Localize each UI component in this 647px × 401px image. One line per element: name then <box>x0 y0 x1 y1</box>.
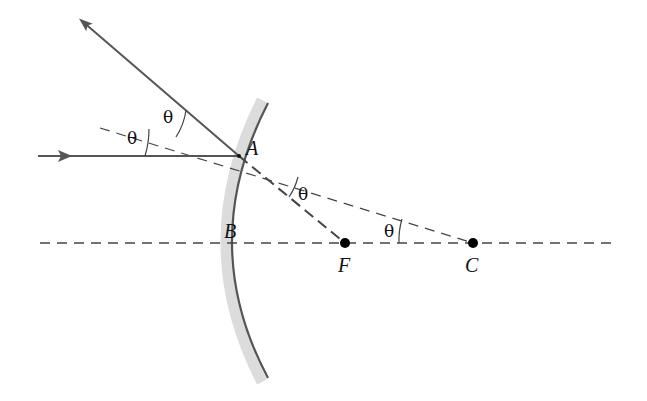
label-B: B <box>224 220 236 242</box>
theta-focus-label: θ <box>298 184 308 204</box>
angle-arc-incident <box>145 129 149 156</box>
label-F: F <box>337 254 351 276</box>
diagram-canvas: θ θ θ θ A B F C <box>0 0 647 401</box>
point-A <box>237 154 241 158</box>
label-C: C <box>465 254 479 276</box>
virtual-ray-to-focus <box>239 156 345 243</box>
label-A: A <box>244 137 259 159</box>
center-point <box>468 238 478 248</box>
focus-point <box>340 238 350 248</box>
mirror-diagram: θ θ θ θ A B F C <box>0 0 647 401</box>
normal-line <box>100 128 473 243</box>
theta-reflected-label: θ <box>163 107 173 127</box>
theta-center-label: θ <box>384 221 394 241</box>
theta-incident-label: θ <box>127 128 137 148</box>
angle-arc-center <box>399 219 402 243</box>
reflected-ray <box>82 21 239 156</box>
angle-arc-reflected <box>176 110 186 137</box>
angle-arc-focus <box>289 177 298 197</box>
